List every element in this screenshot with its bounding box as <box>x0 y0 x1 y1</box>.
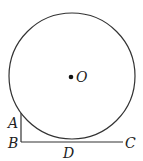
label-o: O <box>76 69 88 85</box>
figure-canvas: O A B C D <box>0 0 143 161</box>
label-b: B <box>7 135 18 151</box>
center-point-o <box>69 75 74 80</box>
label-d: D <box>62 145 74 161</box>
label-a: A <box>6 115 18 131</box>
geometry-figure: O A B C D <box>0 0 143 161</box>
label-c: C <box>125 135 136 151</box>
